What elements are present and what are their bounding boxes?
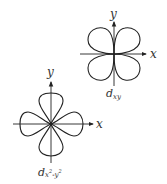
dxy-x-axis-label: x [150, 47, 157, 61]
orbital-diagrams: x y dxy x y dx2-y2 [0, 0, 167, 184]
dxy-lobe-upper-right [114, 28, 140, 54]
dx2-y2-diagram: x y dx2-y2 [13, 65, 103, 179]
dx2y2-orbital-label: dx2-y2 [38, 166, 62, 179]
dxy-y-axis-label: y [109, 7, 117, 21]
dx2y2-x-axis-label: x [96, 117, 103, 131]
dx2y2-y-axis-label: y [46, 65, 54, 79]
dxy-diagram: x y dxy [80, 7, 157, 101]
dxy-orbital-label: dxy [106, 87, 122, 101]
dx2y2-nucleus [49, 122, 52, 125]
dxy-lobe-upper-left [88, 28, 114, 54]
dxy-lobe-lower-left [88, 54, 114, 80]
dxy-lobe-lower-right [114, 54, 140, 80]
